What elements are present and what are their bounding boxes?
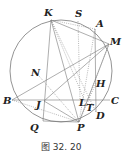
circumcircle xyxy=(10,20,112,122)
point-labels: K S A M N B J L T H C D P Q xyxy=(2,7,122,133)
label-M: M xyxy=(109,36,122,47)
label-K: K xyxy=(43,7,54,18)
label-S: S xyxy=(75,8,82,19)
label-H: H xyxy=(95,78,106,89)
label-Q: Q xyxy=(30,122,39,133)
label-A: A xyxy=(95,18,104,29)
label-C: C xyxy=(111,95,119,106)
label-P: P xyxy=(76,122,85,133)
label-N: N xyxy=(30,67,41,78)
label-B: B xyxy=(2,95,11,106)
geometry-figure: K S A M N B J L T H C D P Q 图 32. 20 xyxy=(0,0,122,154)
dotted-segments xyxy=(12,20,109,122)
solid-segments xyxy=(12,20,110,122)
label-D: D xyxy=(95,110,105,121)
label-L: L xyxy=(78,97,86,108)
figure-caption: 图 32. 20 xyxy=(41,142,82,152)
label-J: J xyxy=(34,99,42,110)
